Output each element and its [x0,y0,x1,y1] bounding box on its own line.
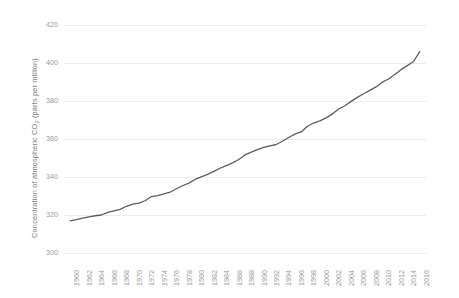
x-tick-label: 1972 [148,270,156,286]
x-tick-label: 2004 [348,270,356,286]
y-tick-label: 360 [18,135,58,143]
x-tick-label: 1990 [261,270,269,286]
gridline [64,253,426,254]
co2-series-line [70,52,420,221]
x-tick-label: 1988 [248,270,256,286]
plot-area [64,25,426,253]
x-tick-label: 1996 [298,270,306,286]
x-tick-label: 1968 [123,270,131,286]
x-tick-label: 1982 [211,270,219,286]
series-layer [64,25,426,253]
y-tick-label: 400 [18,59,58,67]
x-axis-tick-labels: 1960196219641966196819701972197419761978… [64,256,426,298]
x-tick-label: 1984 [223,270,231,286]
x-tick-label: 2008 [373,270,381,286]
x-tick-label: 2006 [360,270,368,286]
x-tick-label: 2010 [385,270,393,286]
x-tick-label: 1998 [310,270,318,286]
x-tick-label: 1992 [273,270,281,286]
x-tick-label: 1964 [98,270,106,286]
x-tick-label: 1986 [236,270,244,286]
x-tick-label: 1960 [73,270,81,286]
y-tick-label: 320 [18,211,58,219]
x-tick-label: 1962 [86,270,94,286]
x-tick-label: 1994 [285,270,293,286]
x-tick-label: 1974 [161,270,169,286]
y-tick-label: 420 [18,21,58,29]
x-tick-label: 1970 [136,270,144,286]
x-tick-label: 2012 [398,270,406,286]
x-tick-label: 1966 [111,270,119,286]
x-tick-label: 2002 [335,270,343,286]
x-tick-label: 1976 [173,270,181,286]
y-tick-label: 300 [18,249,58,257]
x-tick-label: 1978 [186,270,194,286]
x-tick-label: 2000 [323,270,331,286]
x-tick-label: 2014 [410,270,418,286]
x-tick-label: 2016 [423,270,431,286]
x-tick-label: 1980 [198,270,206,286]
y-axis-tick-labels: 300320340360380400420 [14,25,58,253]
co2-line-chart: Concentration of atmospheric CO2 (parts … [0,0,459,298]
y-tick-label: 380 [18,97,58,105]
y-tick-label: 340 [18,173,58,181]
